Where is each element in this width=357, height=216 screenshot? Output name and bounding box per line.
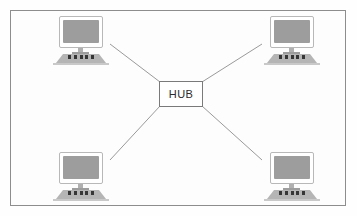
keyboard-key [279,191,282,195]
keyboard-key [291,55,294,59]
workstation-bottom-left [50,152,112,202]
monitor-screen [274,20,310,43]
monitor-stand-foot [283,52,300,54]
workstation-bottom-right [261,152,323,202]
keyboard-key [91,55,94,59]
link-hub-top-left-line [110,44,160,82]
keyboard-base-shadow [53,199,109,201]
keyboard-key [279,55,282,59]
keyboard-key [80,55,83,59]
monitor-bezel [270,152,314,184]
keyboard-keys [279,55,305,59]
keyboard-key [302,191,305,195]
workstation-top-right [261,16,323,66]
monitor-bezel [59,16,103,48]
monitor-stand-foot [72,188,89,190]
keyboard-key [291,191,294,195]
workstation-top-left [50,16,112,66]
monitor-screen [63,20,99,43]
link-hub-bottom-right-line [202,106,262,160]
keyboard-base-shadow [264,63,320,65]
monitor-stand-foot [283,188,300,190]
keyboard-key [296,191,299,195]
monitor-bezel [59,152,103,184]
link-hub-bottom-left-line [110,106,160,160]
keyboard-keys [68,191,94,195]
keyboard-base-shadow [53,63,109,65]
monitor-bezel [270,16,314,48]
keyboard-key [85,191,88,195]
keyboard-key [91,191,94,195]
link-hub-top-right-line [202,44,262,82]
keyboard-keys [279,191,305,195]
keyboard-key [296,55,299,59]
monitor-screen [63,156,99,179]
network-topology-diagram: HUB [0,0,357,216]
keyboard-key [74,55,77,59]
hub-label: HUB [169,89,193,100]
monitor-stand-foot [72,52,89,54]
keyboard-key [285,55,288,59]
keyboard-key [285,191,288,195]
monitor-screen [274,156,310,179]
keyboard-key [80,191,83,195]
keyboard-keys [68,55,94,59]
keyboard-key [85,55,88,59]
keyboard-key [68,55,71,59]
keyboard-key [74,191,77,195]
keyboard-key [68,191,71,195]
keyboard-key [302,55,305,59]
keyboard-base-shadow [264,199,320,201]
hub-node: HUB [159,81,203,107]
